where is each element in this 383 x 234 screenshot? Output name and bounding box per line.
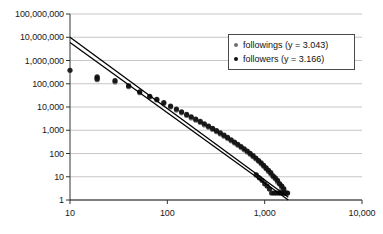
legend-marker-followers <box>234 57 238 61</box>
x-tick-label: 10,000 <box>349 208 376 218</box>
x-tick-label: 100 <box>160 208 175 218</box>
legend-label-followers: followers (y = 3.166) <box>243 54 324 64</box>
y-tick-label: 10,000,000 <box>20 32 64 42</box>
chart-legend: followings (y = 3.043) followers (y = 3.… <box>228 34 355 70</box>
y-tick-label: 10,000 <box>37 102 64 112</box>
x-tick-label: 1,000 <box>254 208 276 218</box>
y-tick-label: 100 <box>49 149 64 159</box>
y-tick-label: 1,000,000 <box>25 56 64 66</box>
legend-label-followings: followings (y = 3.043) <box>243 40 328 50</box>
y-tick-label: 1 <box>59 195 64 205</box>
legend-item-followings: followings (y = 3.043) <box>234 38 348 52</box>
followers-followings-loglog-chart: 1101001,00010,000100,0001,000,00010,000,… <box>0 0 383 234</box>
y-tick-label: 100,000 <box>32 79 64 89</box>
legend-item-followers: followers (y = 3.166) <box>234 52 348 66</box>
y-tick-label: 100,000,000 <box>15 9 64 19</box>
x-tick-label: 10 <box>65 208 75 218</box>
y-tick-label: 1,000 <box>42 125 64 135</box>
y-tick-label: 10 <box>54 172 64 182</box>
legend-marker-followings <box>234 43 238 47</box>
